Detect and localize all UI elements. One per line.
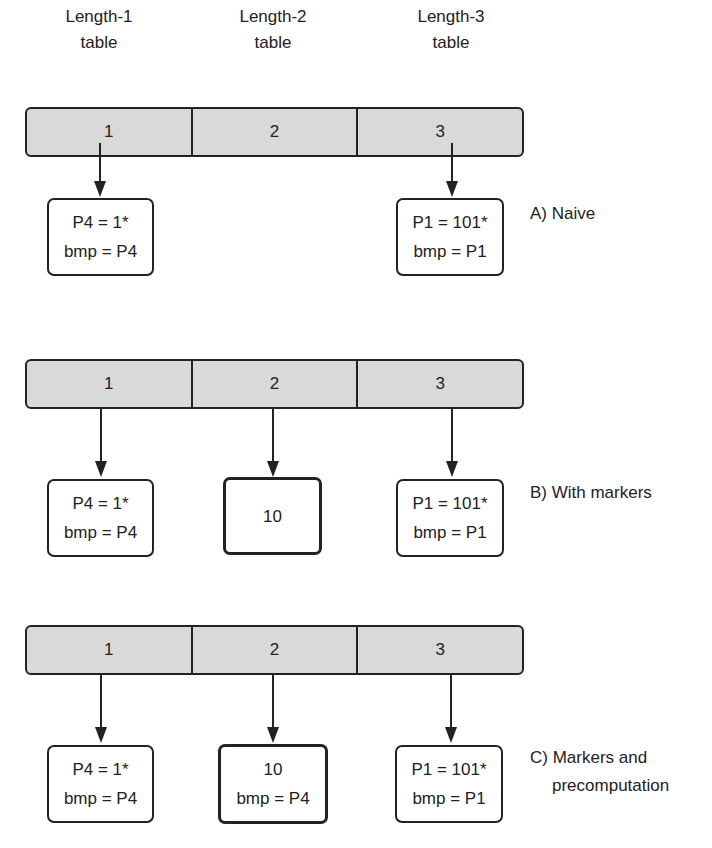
label-line: C) Markers and bbox=[530, 744, 669, 772]
prefix-entry-box: P1 = 101* bmp = P1 bbox=[396, 479, 504, 557]
table-cell-1: 1 bbox=[27, 627, 191, 673]
table-cell-3: 3 bbox=[356, 627, 522, 673]
entry-line: P4 = 1* bbox=[72, 208, 128, 237]
header-line: table bbox=[213, 30, 333, 56]
entry-line: bmp = P4 bbox=[64, 784, 137, 813]
entry-line: bmp = P4 bbox=[64, 518, 137, 547]
entry-line: bmp = P4 bbox=[236, 784, 309, 813]
table-cell-3: 3 bbox=[356, 361, 522, 407]
table-cell-1: 1 bbox=[27, 109, 191, 155]
table-cell-2: 2 bbox=[191, 361, 357, 407]
entry-line: P1 = 101* bbox=[412, 208, 487, 237]
prefix-entry-box: P4 = 1* bmp = P4 bbox=[47, 479, 154, 557]
table-cell-1: 1 bbox=[27, 361, 191, 407]
entry-line: P4 = 1* bbox=[72, 489, 128, 518]
header-line: Length-1 bbox=[39, 4, 159, 30]
entry-line: P1 = 101* bbox=[412, 489, 487, 518]
marker-entry-box: 10 bbox=[223, 477, 322, 555]
table-cell-3: 3 bbox=[356, 109, 522, 155]
entry-line: 10 bbox=[263, 502, 282, 531]
header-line: Length-3 bbox=[391, 4, 511, 30]
label-line: precomputation bbox=[530, 772, 669, 800]
entry-line: bmp = P1 bbox=[413, 518, 486, 547]
header-line: table bbox=[391, 30, 511, 56]
marker-entry-box: 10 bmp = P4 bbox=[218, 744, 328, 824]
header-line: Length-2 bbox=[213, 4, 333, 30]
table-cell-2: 2 bbox=[191, 109, 357, 155]
table-cell-2: 2 bbox=[191, 627, 357, 673]
section-b-table-bar: 1 2 3 bbox=[25, 359, 524, 409]
header-line: table bbox=[39, 30, 159, 56]
entry-line: 10 bbox=[264, 755, 283, 784]
prefix-entry-box: P1 = 101* bmp = P1 bbox=[395, 745, 503, 823]
prefix-entry-box: P4 = 1* bmp = P4 bbox=[47, 198, 154, 276]
prefix-entry-box: P4 = 1* bmp = P4 bbox=[47, 745, 154, 823]
entry-line: bmp = P1 bbox=[412, 784, 485, 813]
entry-line: bmp = P1 bbox=[413, 237, 486, 266]
column-header-length-2: Length-2 table bbox=[213, 4, 333, 56]
prefix-entry-box: P1 = 101* bmp = P1 bbox=[396, 198, 504, 276]
section-c-label: C) Markers and precomputation bbox=[530, 744, 669, 800]
section-c-table-bar: 1 2 3 bbox=[25, 625, 524, 675]
entry-line: P4 = 1* bbox=[72, 755, 128, 784]
column-header-length-3: Length-3 table bbox=[391, 4, 511, 56]
entry-line: bmp = P4 bbox=[64, 237, 137, 266]
column-header-length-1: Length-1 table bbox=[39, 4, 159, 56]
section-a-label: A) Naive bbox=[530, 200, 595, 228]
entry-line: P1 = 101* bbox=[411, 755, 486, 784]
section-b-label: B) With markers bbox=[530, 479, 652, 507]
